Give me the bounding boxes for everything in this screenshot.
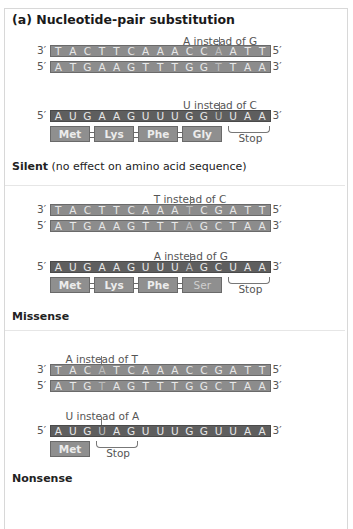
- nucleotide: A: [255, 220, 270, 232]
- pointer-tick: [101, 356, 102, 364]
- nucleotide: G: [197, 61, 212, 73]
- nucleotide: T: [182, 204, 197, 216]
- amino-acid-phe: Phe: [138, 277, 178, 293]
- nucleotide: A: [255, 110, 270, 122]
- strand-end-label: 5′: [273, 203, 282, 215]
- nucleotide: T: [226, 380, 241, 392]
- mrna: AUGAAGUUUAGCUAA: [50, 261, 271, 273]
- nucleotide: G: [211, 364, 226, 376]
- nucleotide: C: [124, 204, 139, 216]
- nucleotide: U: [226, 425, 241, 437]
- nucleotide: U: [211, 425, 226, 437]
- nucleotide: T: [211, 61, 226, 73]
- nucleotide: G: [80, 220, 95, 232]
- nucleotide: G: [197, 110, 212, 122]
- strand-end-label: 3′: [37, 363, 46, 375]
- nucleotide: U: [226, 261, 241, 273]
- nucleotide: A: [240, 261, 255, 273]
- nucleotide: T: [109, 204, 124, 216]
- nucleotide: T: [138, 61, 153, 73]
- nucleotide: C: [197, 204, 212, 216]
- nucleotide: G: [124, 61, 139, 73]
- nucleotide: T: [95, 380, 110, 392]
- nucleotide: U: [211, 110, 226, 122]
- coding-strand: ATGAAGTTTGGTTAA: [50, 61, 271, 73]
- amino-acid-ser: Ser: [182, 277, 222, 293]
- nucleotide: A: [109, 261, 124, 273]
- mutation-type-label: Nonsense: [12, 472, 72, 485]
- nucleotide: A: [66, 364, 81, 376]
- strand-end-label: 5′: [37, 260, 46, 272]
- strand-end-label: 3′: [37, 44, 46, 56]
- amino-acid-gly: Gly: [182, 126, 222, 142]
- nucleotide: A: [153, 45, 168, 57]
- amino-acid-lys: Lys: [94, 277, 134, 293]
- nucleotide: T: [153, 220, 168, 232]
- nucleotide: G: [80, 61, 95, 73]
- template-strand: TACATCAAACCGATT: [50, 364, 271, 376]
- nucleotide: A: [51, 425, 66, 437]
- strand-end-label: 5′: [37, 60, 46, 72]
- nucleotide: A: [226, 364, 241, 376]
- stop-label: Stop: [238, 283, 262, 295]
- nucleotide: T: [168, 380, 183, 392]
- nucleotide: C: [124, 364, 139, 376]
- nucleotide: T: [66, 61, 81, 73]
- strand-end-label: 5′: [273, 44, 282, 56]
- nucleotide: A: [168, 204, 183, 216]
- nucleotide: U: [66, 425, 81, 437]
- nucleotide: A: [211, 45, 226, 57]
- nucleotide: G: [197, 425, 212, 437]
- mutation-type: Silent: [12, 160, 48, 173]
- nucleotide: C: [182, 364, 197, 376]
- nucleotide: U: [138, 261, 153, 273]
- mutation-type: Nonsense: [12, 472, 72, 485]
- nucleotide: U: [153, 425, 168, 437]
- coding-strand: ATGTAGTTTGGCTAA: [50, 380, 271, 392]
- nucleotide: A: [153, 364, 168, 376]
- nucleotide: A: [168, 364, 183, 376]
- strand-end-label: 3′: [273, 260, 282, 272]
- strand-end-label: 3′: [273, 379, 282, 391]
- nucleotide: A: [109, 380, 124, 392]
- nucleotide: A: [240, 61, 255, 73]
- nucleotide: U: [168, 425, 183, 437]
- nucleotide: T: [240, 204, 255, 216]
- nucleotide: G: [124, 220, 139, 232]
- nucleotide: T: [66, 380, 81, 392]
- nucleotide: C: [211, 261, 226, 273]
- nucleotide: A: [138, 364, 153, 376]
- nucleotide: A: [226, 45, 241, 57]
- nucleotide: T: [138, 220, 153, 232]
- nucleotide: A: [95, 61, 110, 73]
- nucleotide: A: [109, 110, 124, 122]
- nucleotide: A: [51, 61, 66, 73]
- nucleotide: T: [66, 220, 81, 232]
- strand-end-label: 3′: [273, 219, 282, 231]
- nucleotide: C: [197, 364, 212, 376]
- nucleotide: A: [51, 220, 66, 232]
- nucleotide: T: [168, 61, 183, 73]
- pointer-tick: [219, 102, 220, 110]
- nucleotide: A: [51, 380, 66, 392]
- strand-end-label: 3′: [273, 424, 282, 436]
- nucleotide: A: [255, 425, 270, 437]
- nucleotide: G: [80, 425, 95, 437]
- mrna: AUGAAGUUUGGUUAA: [50, 110, 271, 122]
- nucleotide: C: [124, 45, 139, 57]
- nucleotide: U: [168, 110, 183, 122]
- amino-acid-met: Met: [50, 126, 90, 142]
- amino-acid-lys: Lys: [94, 126, 134, 142]
- section-divider: [5, 330, 345, 331]
- strand-end-label: 3′: [273, 109, 282, 121]
- nucleotide: A: [226, 204, 241, 216]
- nucleotide: A: [240, 110, 255, 122]
- nucleotide: T: [138, 380, 153, 392]
- mutation-type-label: Silent (no effect on amino acid sequence…: [12, 160, 247, 173]
- strand-end-label: 5′: [273, 363, 282, 375]
- nucleotide: A: [255, 61, 270, 73]
- amino-acid-met: Met: [50, 277, 90, 293]
- nucleotide: G: [197, 261, 212, 273]
- nucleotide: U: [138, 110, 153, 122]
- nucleotide: A: [240, 380, 255, 392]
